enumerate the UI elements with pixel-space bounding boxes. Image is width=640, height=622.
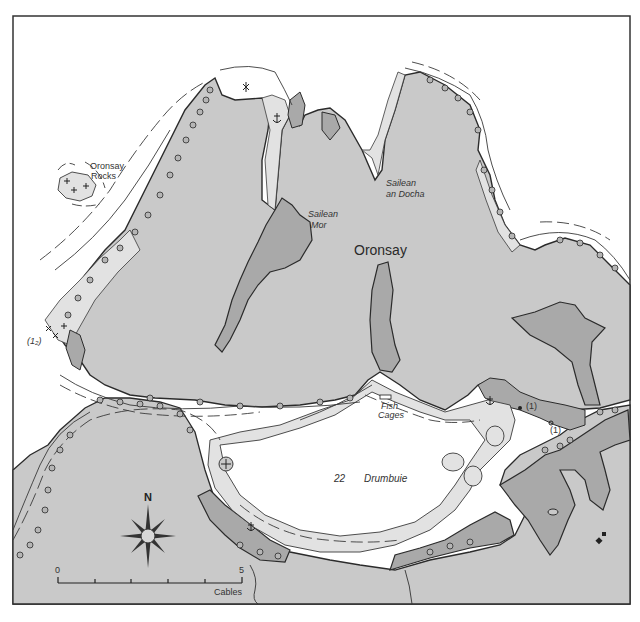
shoal-2 [464, 466, 482, 486]
label-drying-height-1a: (1) [526, 402, 537, 411]
label-sailean-an-docha-line2: an Docha [386, 190, 425, 199]
rock-east-3 [518, 406, 522, 410]
scale-start-label: 0 [55, 566, 60, 575]
compass-north-label: N [144, 492, 152, 504]
chart-map [0, 0, 640, 622]
islet-east [548, 509, 558, 515]
shoal-3 [486, 426, 504, 446]
label-sailean-mor-line2: Mor [311, 221, 327, 230]
scale-end-label: 5 [239, 566, 244, 575]
label-drying-height-west: (1₂) [27, 337, 41, 346]
rock-buoy-symbol [219, 457, 233, 471]
label-sailean-an-docha-line1: Sailean [386, 179, 416, 188]
rock-east-1 [602, 532, 606, 536]
label-oronsay: Oronsay [354, 243, 407, 258]
label-fish-cages-line2: Cages [378, 411, 404, 420]
label-oronsay-rocks-line2: Rocks [91, 172, 116, 181]
scale-unit-label: Cables [214, 588, 242, 597]
label-drying-height-1b: (1) [550, 426, 561, 435]
shoal-1 [442, 453, 464, 471]
label-drumbuie: Drumbuie [364, 474, 407, 485]
label-sailean-mor-line1: Sailean [308, 210, 338, 219]
label-depth-22: 22 [334, 474, 345, 485]
fish-cages-symbol [380, 395, 391, 399]
